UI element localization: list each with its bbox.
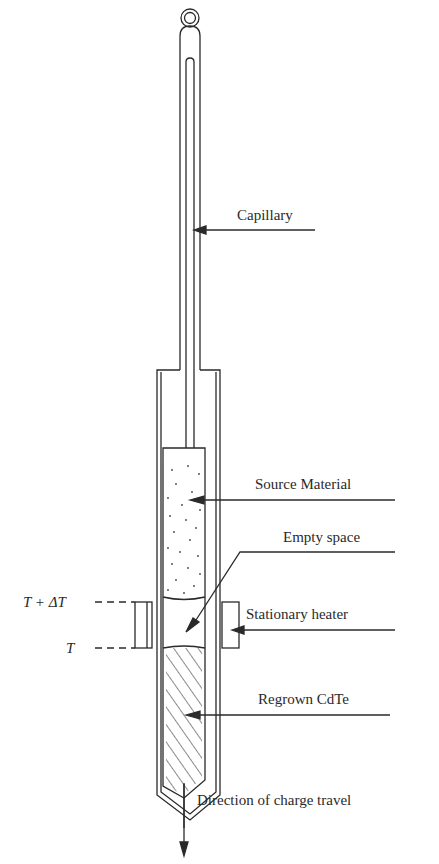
heater-left — [135, 602, 152, 648]
hanging-ring-icon — [181, 9, 199, 27]
label-source-material: Source Material — [255, 477, 351, 492]
label-t: T — [66, 641, 74, 656]
ampoule-diagram — [0, 0, 439, 864]
regrown-crystal — [163, 648, 205, 798]
leader-heater — [232, 626, 395, 634]
label-capillary: Capillary — [237, 208, 293, 223]
label-direction: Direction of charge travel — [197, 793, 351, 808]
leader-capillary — [194, 226, 315, 234]
leader-source — [190, 496, 395, 504]
source-interface — [163, 597, 205, 600]
label-regrown-cdte: Regrown CdTe — [258, 692, 349, 707]
label-t-plus-delta-t: T + ΔT — [23, 595, 66, 610]
down-arrow-icon — [180, 783, 188, 856]
label-stationary-heater: Stationary heater — [246, 607, 348, 622]
heater-right — [222, 602, 239, 648]
capillary-tube — [180, 26, 200, 448]
label-empty-space: Empty space — [283, 530, 360, 545]
crystal-interface — [163, 646, 205, 648]
source-material — [167, 465, 201, 594]
